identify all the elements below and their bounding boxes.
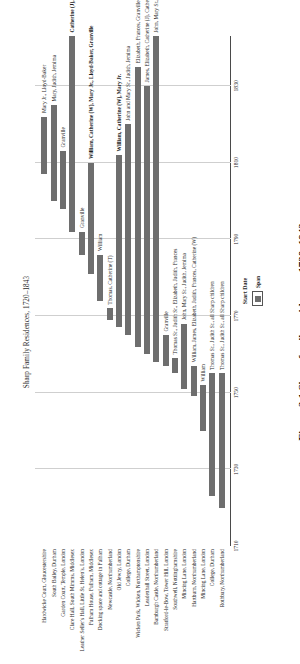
chart-canvas: Sharp Family Residences, 1720–1843 Rothb… — [21, 0, 279, 664]
category-label: Hartburn, Northumberland — [191, 549, 197, 607]
span-bar[interactable] — [209, 373, 215, 496]
category-label: Mincing Lane, London — [200, 549, 206, 599]
bar-value-label: Elizabeth, Frances, Granville, Catherine… — [135, 0, 141, 63]
span-bar[interactable] — [41, 117, 47, 175]
category-label: Docking space and cottage in Fulham — [97, 549, 103, 630]
chart-row: Old Jewry, LondonWilliam, Catherine (W),… — [114, 36, 123, 546]
chart-row: Stratford-le-Bow, Tower Hill, LondonGran… — [161, 36, 170, 546]
legend-swatch-box — [252, 291, 263, 306]
span-bar[interactable] — [116, 155, 122, 328]
category-label: Bamburgh Castle, Northumberland — [153, 549, 159, 625]
span-bar[interactable] — [200, 385, 206, 431]
bar-value-label: William, Catherine (W), Mary Jr. — [116, 74, 122, 151]
category-label: Newcastle, Northumberland — [107, 549, 113, 610]
chart-row: Wicken Park, Wicken, NorthamptonshireEli… — [133, 36, 142, 546]
category-label: Stratford-le-Bow, Tower Hill, London — [163, 549, 169, 631]
span-bar[interactable] — [69, 36, 75, 232]
chart-row: Garden Court, Temple, LondonGranville — [58, 36, 67, 546]
bar-value-label: Mary, Judith, Jemima — [51, 55, 57, 102]
category-label: Leadenhall Street, London — [144, 549, 150, 606]
category-label: Old Jewry, London — [116, 549, 122, 590]
bar-value-label: Granville — [163, 311, 169, 331]
legend-label-span: Span — [255, 276, 261, 288]
span-bar[interactable] — [88, 163, 94, 274]
span-bar[interactable] — [135, 67, 141, 347]
span-bar[interactable] — [60, 151, 66, 209]
category-label: College, Durham — [209, 549, 215, 586]
chart-row: Leather Seller's Hall, Little St. Helen'… — [77, 36, 86, 546]
bar-value-label: William, James, Elizabeth, Judith, Franc… — [191, 237, 197, 362]
chart-row: Rothbury, NorthumberlandThomas Sr., Judi… — [217, 36, 226, 546]
chart-row: Newcastle, NorthumberlandThomas, Catheri… — [105, 36, 114, 546]
bar-value-label: Thomas Sr., Judith Sr., all Sharp childr… — [219, 281, 225, 370]
bar-value-label: John and Mary Sr., Judith, Jemima — [125, 46, 131, 121]
span-bar[interactable] — [191, 366, 197, 397]
chart-row: Hartburn, NorthumberlandWilliam, James, … — [189, 36, 198, 546]
bar-value-label: Granville — [79, 208, 85, 228]
bar-value-label: Thomas Sr., Judith Sr., all Sharp childr… — [209, 281, 215, 370]
x-tick-label: 1810 — [233, 157, 239, 168]
x-tick-label: 1750 — [233, 387, 239, 398]
bar-value-label: John, Mary Sr., Judith, Jemima — [181, 253, 187, 320]
span-bar[interactable] — [79, 232, 85, 255]
x-axis-line — [230, 36, 231, 546]
bar-value-label: Thomas Sr., Judith Sr., Elizabeth, Judit… — [172, 249, 178, 355]
bar-value-label: Granville — [60, 127, 66, 147]
x-tick-label: 1790 — [233, 234, 239, 245]
span-bar[interactable] — [97, 255, 103, 301]
category-label: Fulham House, Fulham, Middlesex — [88, 549, 94, 625]
category-label: Garden Court, Temple, London — [60, 549, 66, 617]
bar-value-label: Mary Jr., Lloyd-Baker — [41, 65, 47, 113]
span-bar[interactable] — [125, 124, 131, 335]
category-label: Leather Seller's Hall, Little St. Helen'… — [79, 549, 85, 651]
bar-value-label: Catherine (J), Catherine Jr., Andrew — [69, 0, 75, 33]
x-tick-label: 1770 — [233, 310, 239, 321]
span-bar[interactable] — [107, 308, 113, 320]
category-label: Wicken Park, Wicken, Northamptonshire — [135, 549, 141, 638]
bar-value-label: James, Elizabeth, Catherine (J), Catheri… — [144, 0, 150, 82]
chart-row: Bamburgh Castle, NorthumberlandJohn, Mar… — [152, 36, 161, 546]
chart-row: Hardwicke Court, GloucestershireMary Jr.… — [40, 36, 49, 546]
chart-row: Mincing Lane, LondonJohn, Mary Sr., Judi… — [180, 36, 189, 546]
category-label: Mincing Lane, London — [181, 549, 187, 599]
bar-value-label: John, Mary Sr., Thomas — [153, 0, 159, 33]
chart-row: Clare Hall, South Mimms, MiddlesexCather… — [68, 36, 77, 546]
span-bar[interactable] — [144, 86, 150, 354]
bar-value-label: William — [200, 364, 206, 381]
legend: Span — [252, 36, 263, 546]
chart-title: Sharp Family Residences, 1720–1843 — [23, 0, 31, 664]
span-bar[interactable] — [163, 335, 169, 366]
category-label: Southwell, Nottinghamshire — [172, 549, 178, 610]
chart-row: Mincing Lane, LondonWilliam — [198, 36, 207, 546]
category-label: Rothbury, Northumberland — [219, 549, 225, 607]
chart-row: Leadenhall Street, LondonJames, Elizabet… — [142, 36, 151, 546]
span-bar[interactable] — [153, 36, 159, 362]
x-tick-label: 1830 — [233, 80, 239, 91]
chart-row: Docking space and cottage in FulhamWilli… — [96, 36, 105, 546]
chart-row: Fulham House, Fulham, MiddlesexWilliam, … — [86, 36, 95, 546]
figure-page: Sharp Family Residences, 1720–1843 Rothb… — [0, 0, 300, 664]
chart-row: College, DurhamThomas Sr., Judith Sr., a… — [208, 36, 217, 546]
chart-row: Southwell, NottinghamshireThomas Sr., Ju… — [170, 36, 179, 546]
legend-color-swatch — [255, 296, 261, 302]
span-bar[interactable] — [219, 373, 225, 507]
chart-row: College, DurhamJohn and Mary Sr., Judith… — [124, 36, 133, 546]
span-bar[interactable] — [172, 358, 178, 373]
chart-row: South Bailey, DurhamMary, Judith, Jemima — [49, 36, 58, 546]
span-bar[interactable] — [181, 324, 187, 389]
x-tick-label: 1710 — [233, 540, 239, 551]
category-label: Clare Hall, South Mimms, Middlesex — [69, 549, 75, 630]
bar-value-label: William, Catherine (W), Mary Jr., Lloyd-… — [88, 26, 94, 160]
span-bar[interactable] — [51, 105, 57, 201]
bar-value-label: Thomas, Catherine (T) — [107, 256, 113, 305]
category-label: South Bailey, Durham — [51, 549, 57, 597]
x-axis-title: Start Date — [242, 36, 248, 546]
category-label: College, Durham — [125, 549, 131, 586]
figure-caption: Figure 3.1 Sharp family residences, 1720… — [296, 0, 300, 664]
bar-value-label: William — [97, 234, 103, 251]
x-tick-label: 1730 — [233, 464, 239, 475]
category-label: Hardwicke Court, Gloucestershire — [41, 549, 47, 623]
plot-area: Rothbury, NorthumberlandThomas Sr., Judi… — [35, 36, 231, 546]
